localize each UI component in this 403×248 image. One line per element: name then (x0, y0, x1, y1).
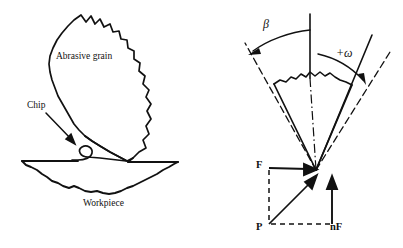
right-grain-wedge-flanks (274, 84, 352, 170)
workpiece-outline (22, 161, 178, 194)
omega-arc-arrowhead (358, 73, 366, 85)
grinding-mechanics-figure: Abrasive grain Chip Workpiece β +ω F nF … (0, 0, 403, 248)
label-chip: Chip (27, 101, 45, 111)
label-angle-beta: β (263, 18, 269, 30)
label-force-F: F (256, 160, 262, 171)
abrasive-grain-outline (49, 15, 151, 161)
force-F-vector (269, 164, 317, 175)
wedge-centreline (310, 78, 316, 170)
label-workpiece: Workpiece (83, 199, 124, 209)
beta-reference-ray (245, 43, 316, 170)
beta-angle-arc (253, 30, 310, 51)
chip-curl (72, 146, 126, 161)
right-grain-wedge-top (274, 72, 352, 85)
workpiece-top-surface (22, 161, 178, 162)
label-point-P: P (256, 222, 262, 233)
force-nF-vector (327, 176, 337, 224)
label-angle-omega: +ω (336, 47, 353, 59)
resultant-force-vector (269, 175, 317, 224)
label-force-nF: nF (330, 222, 342, 233)
figure-linework (0, 0, 403, 248)
label-abrasive-grain: Abrasive grain (56, 52, 112, 62)
